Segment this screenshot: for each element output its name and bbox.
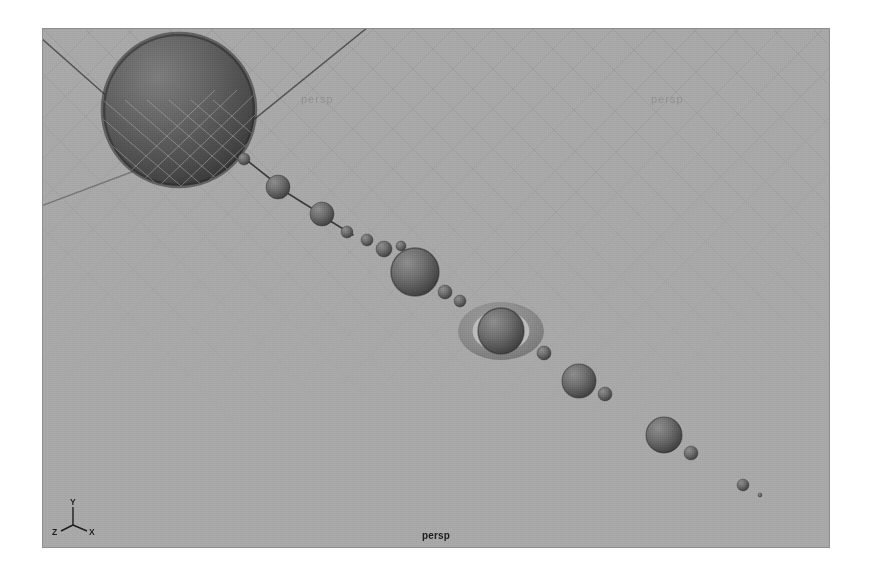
uranus-moon[interactable] (598, 387, 612, 401)
earth[interactable] (310, 202, 334, 226)
venus[interactable] (266, 175, 290, 199)
saturn-moon-a[interactable] (454, 295, 466, 307)
axis-gizmo: Y X Z (51, 495, 107, 539)
axis-label-x: X (89, 527, 95, 537)
camera-name-label: persp (422, 530, 450, 541)
asteroid-1[interactable] (396, 241, 406, 251)
moon-earth[interactable] (341, 226, 353, 238)
perspective-viewport[interactable]: persp persp persp Y X Z (42, 28, 830, 548)
sun[interactable] (103, 34, 255, 186)
pluto[interactable] (737, 479, 749, 491)
axis-gizmo-lines (61, 507, 87, 531)
jupiter-moon[interactable] (438, 285, 452, 299)
saturn-moon-b[interactable] (537, 346, 551, 360)
uranus[interactable] (562, 364, 596, 398)
jupiter[interactable] (391, 248, 439, 296)
neptune[interactable] (646, 417, 682, 453)
mercury[interactable] (238, 153, 250, 165)
saturn[interactable] (478, 308, 524, 354)
mars-moon[interactable] (376, 241, 392, 257)
mars[interactable] (361, 234, 373, 246)
scene-svg (43, 29, 830, 548)
scene-objects[interactable] (43, 29, 829, 547)
pluto-moon[interactable] (758, 493, 762, 497)
ghost-label-left: persp (301, 93, 334, 105)
axis-label-z: Z (52, 527, 57, 537)
orbit-connectors (244, 158, 353, 235)
neptune-moon[interactable] (684, 446, 698, 460)
axis-label-y: Y (70, 497, 76, 507)
ghost-label-right: persp (651, 93, 684, 105)
